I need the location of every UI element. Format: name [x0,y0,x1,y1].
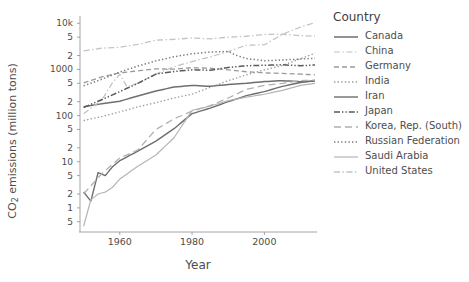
legend-key-swatch [333,120,359,132]
legend-item-label: Russian Federation [365,133,460,148]
legend-key-swatch [333,30,359,42]
y-axis-tick-label: 2 [0,194,73,195]
x-axis-title: Year [80,258,316,272]
series-line-canada [84,81,315,107]
chart-figure: CO2 emissions (million tons) 10k52100052… [0,0,469,282]
y-axis-tick-label: 5 [0,129,73,130]
series-line-korea-rep-south [84,80,315,194]
legend: Country CanadaChinaGermanyIndiaIranJapan… [333,10,469,178]
legend-key-swatch [333,90,359,102]
legend-item-india[interactable]: India [333,73,469,88]
legend-item-label: Saudi Arabia [365,148,428,163]
legend-item-label: Canada [365,28,403,43]
y-axis-tick-label: 10 [0,162,73,163]
y-axis-tick-label: 1000 [0,69,73,70]
legend-item-label: Japan [365,103,393,118]
legend-item-united-states[interactable]: United States [333,163,469,178]
legend-key-swatch [333,60,359,72]
legend-key-swatch [333,75,359,87]
legend-item-saudi-arabia[interactable]: Saudi Arabia [333,148,469,163]
x-axis-tick-label: 2000 [264,236,265,237]
y-axis-tick-label: 2 [0,102,73,103]
series-line-iran [84,81,315,201]
legend-key-swatch [333,165,359,177]
y-axis-tick-label: 5 [0,83,73,84]
legend-item-label: United States [365,163,433,178]
series-line-china [84,23,315,114]
legend-item-russian-federation[interactable]: Russian Federation [333,133,469,148]
series-group [84,23,315,227]
y-axis-tick-label: 2 [0,56,73,57]
legend-item-korea-rep-south[interactable]: Korea, Rep. (South) [333,118,469,133]
legend-key-swatch [333,150,359,162]
legend-key-swatch [333,45,359,57]
y-axis-tick-label: 100 [0,116,73,117]
legend-item-label: Korea, Rep. (South) [365,118,462,133]
legend-item-japan[interactable]: Japan [333,103,469,118]
series-line-saudi-arabia [84,83,315,226]
series-line-united-states [84,34,315,51]
legend-key-swatch [333,135,359,147]
legend-title: Country [333,10,469,24]
legend-item-china[interactable]: China [333,43,469,58]
legend-item-label: China [365,43,394,58]
y-axis-tick-label: 10k [0,23,73,24]
legend-item-label: Iran [365,88,385,103]
legend-item-iran[interactable]: Iran [333,88,469,103]
y-axis-tick-label: 1 [0,208,73,209]
x-axis-tick-label: 1960 [120,236,121,237]
y-axis-tick-label: 2 [0,148,73,149]
y-axis-tick-label: 5 [0,222,73,223]
x-axis-tick-label: 1980 [192,236,193,237]
legend-item-label: India [365,73,390,88]
y-axis-tick-label: 5 [0,37,73,38]
legend-item-germany[interactable]: Germany [333,58,469,73]
legend-item-canada[interactable]: Canada [333,28,469,43]
legend-items: CanadaChinaGermanyIndiaIranJapanKorea, R… [333,28,469,178]
legend-item-label: Germany [365,58,411,73]
legend-key-swatch [333,105,359,117]
y-axis-tick-label: 5 [0,176,73,177]
